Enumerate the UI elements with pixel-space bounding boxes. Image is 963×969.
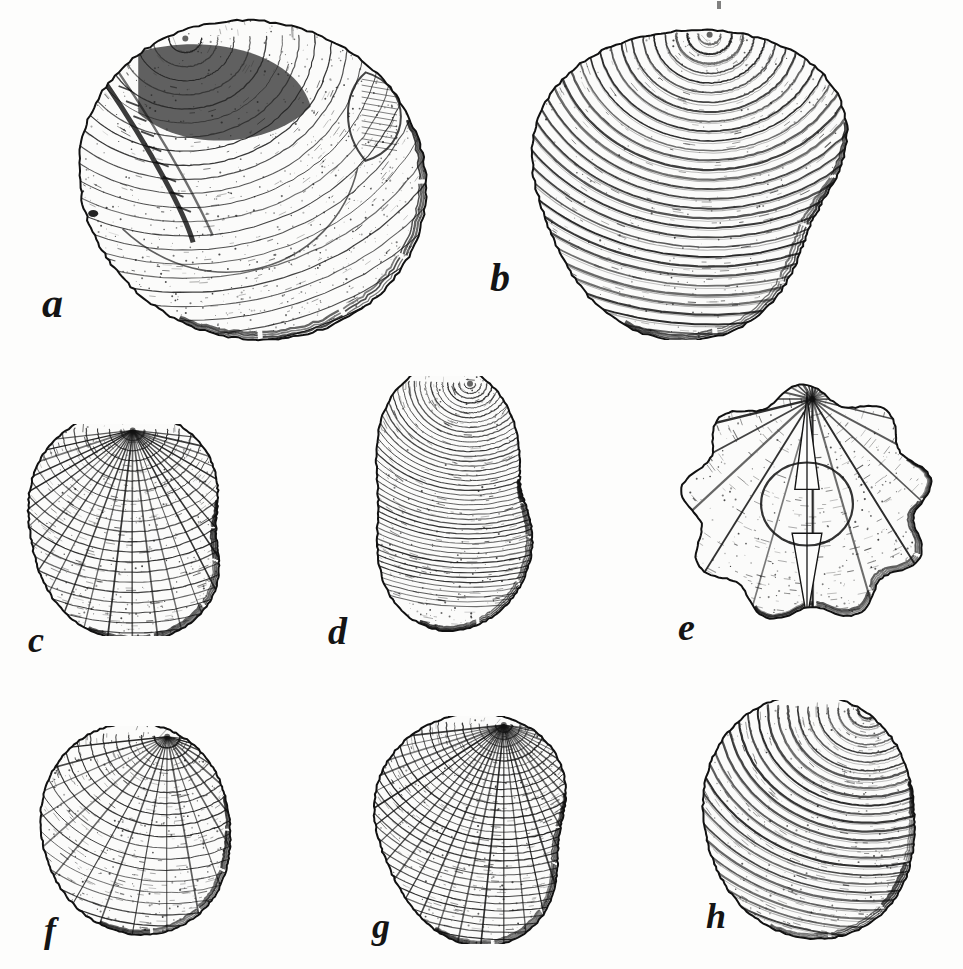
figure-label-f: f: [44, 912, 56, 948]
specimen-b: [512, 22, 892, 340]
specimen-f: [28, 726, 260, 940]
figure-label-b: b: [490, 258, 510, 298]
specimen-e: [672, 382, 942, 626]
figure-label-g: g: [372, 908, 390, 944]
illustration-plate: abcdefgh: [0, 0, 963, 969]
specimen-d: [348, 376, 592, 634]
specimen-h: [690, 700, 952, 944]
specimen-a: [52, 18, 444, 358]
figure-label-e: e: [678, 608, 695, 646]
figure-label-c: c: [28, 622, 44, 658]
specimen-c: [14, 424, 272, 636]
specimen-g: [360, 716, 608, 944]
figure-label-a: a: [42, 282, 63, 324]
figure-label-h: h: [706, 898, 726, 934]
stray-ink-mark: [717, 1, 721, 9]
figure-label-d: d: [328, 612, 347, 650]
